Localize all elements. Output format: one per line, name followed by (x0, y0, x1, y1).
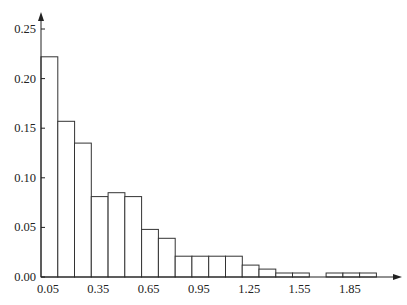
x-tick-label: 0.05 (37, 282, 59, 296)
y-tick-label: 0.05 (14, 220, 36, 234)
histogram-bar (142, 229, 159, 277)
histogram-bar (158, 238, 175, 277)
y-axis-arrow-icon (38, 12, 44, 21)
histogram-bar (242, 265, 259, 277)
y-axis-ticks: 0.000.050.100.150.200.25 (14, 22, 45, 284)
x-tick-label: 0.35 (87, 282, 109, 296)
x-axis-arrow-icon (393, 274, 402, 280)
histogram-bar (209, 256, 226, 277)
histogram-bar (108, 193, 125, 277)
x-axis-ticks: 0.050.350.650.951.251.551.85 (37, 282, 361, 296)
y-tick-label: 0.15 (14, 121, 36, 135)
histogram-bar (58, 121, 75, 277)
x-tick-label: 1.85 (339, 282, 361, 296)
histogram-bar (259, 269, 276, 277)
histogram-bar (41, 57, 58, 277)
histogram-bar (293, 273, 310, 277)
histogram-bar (326, 273, 343, 277)
y-tick-label: 0.25 (14, 22, 36, 36)
histogram-bar (276, 273, 293, 277)
histogram-bar (75, 143, 92, 277)
histogram-bar (192, 256, 209, 277)
histogram-bar (360, 273, 377, 277)
histogram-bar (91, 197, 108, 277)
y-tick-label: 0.00 (14, 270, 36, 284)
histogram-bar (343, 273, 360, 277)
x-tick-label: 0.95 (188, 282, 210, 296)
histogram-bar (175, 256, 192, 277)
y-tick-label: 0.20 (14, 72, 36, 86)
histogram-bars (41, 57, 376, 277)
x-tick-label: 0.65 (138, 282, 160, 296)
x-tick-label: 1.55 (289, 282, 311, 296)
y-tick-label: 0.10 (14, 171, 36, 185)
histogram-chart: 0.000.050.100.150.200.25 0.050.350.650.9… (0, 0, 407, 305)
histogram-bar (226, 256, 243, 277)
histogram-bar (125, 197, 142, 277)
x-tick-label: 1.25 (238, 282, 260, 296)
